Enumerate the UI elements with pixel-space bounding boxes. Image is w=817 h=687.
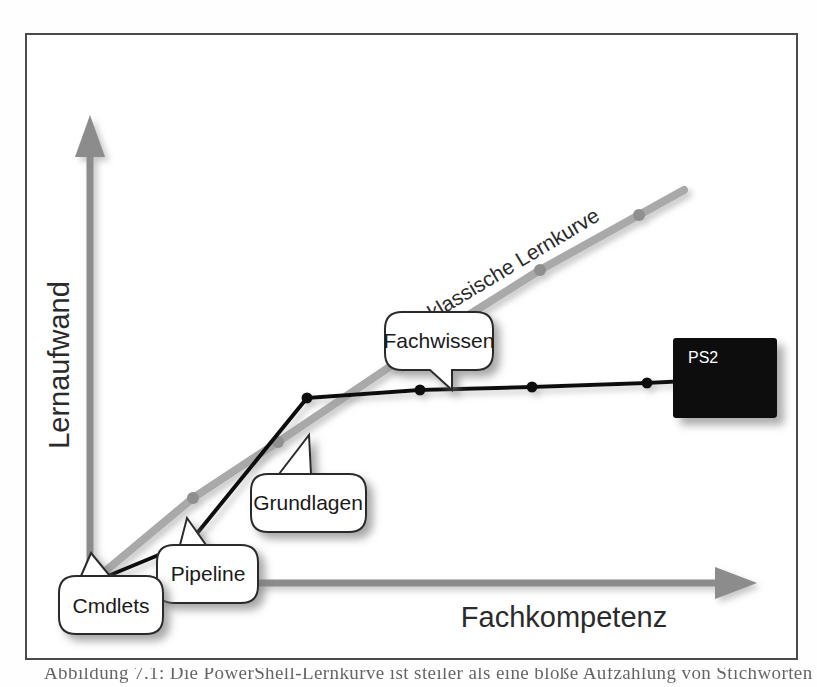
powershell-curve-point xyxy=(415,385,426,396)
figure-caption: Abbildung 7.1: Die PowerShell-Lernkurve … xyxy=(44,668,813,684)
learning-curve-chart: Lernaufwand Fachkompetenz klassische Ler… xyxy=(27,35,796,658)
x-axis-title: Fachkompetenz xyxy=(461,601,667,633)
callout-fachwissen-label: Fachwissen xyxy=(384,329,495,352)
callout-pipeline-bubble xyxy=(157,518,258,603)
classic-curve-label: klassische Lernkurve xyxy=(423,203,603,324)
y-axis-arrowhead xyxy=(75,115,105,157)
powershell-curve-point xyxy=(642,378,653,389)
figure-frame: Lernaufwand Fachkompetenz klassische Ler… xyxy=(25,33,798,660)
classic-curve-point xyxy=(187,492,199,504)
powershell-curve-point xyxy=(527,382,538,393)
figure-caption-strip: Abbildung 7.1: Die PowerShell-Lernkurve … xyxy=(0,668,817,687)
classic-curve-point xyxy=(633,209,645,221)
figure-root: Lernaufwand Fachkompetenz klassische Ler… xyxy=(0,0,817,687)
callout-cmdlets-label: Cmdlets xyxy=(72,594,149,617)
y-axis-title: Lernaufwand xyxy=(43,281,75,449)
powershell-curve-point xyxy=(302,393,313,404)
x-axis-arrowhead xyxy=(715,567,757,599)
callout-pipeline[interactable] xyxy=(157,518,258,603)
callout-grundlagen-label: Grundlagen xyxy=(253,491,363,514)
callout-pipeline-label: Pipeline xyxy=(171,562,246,585)
ps2-box-label: PS2 xyxy=(688,349,718,366)
classic-curve-point xyxy=(534,264,546,276)
